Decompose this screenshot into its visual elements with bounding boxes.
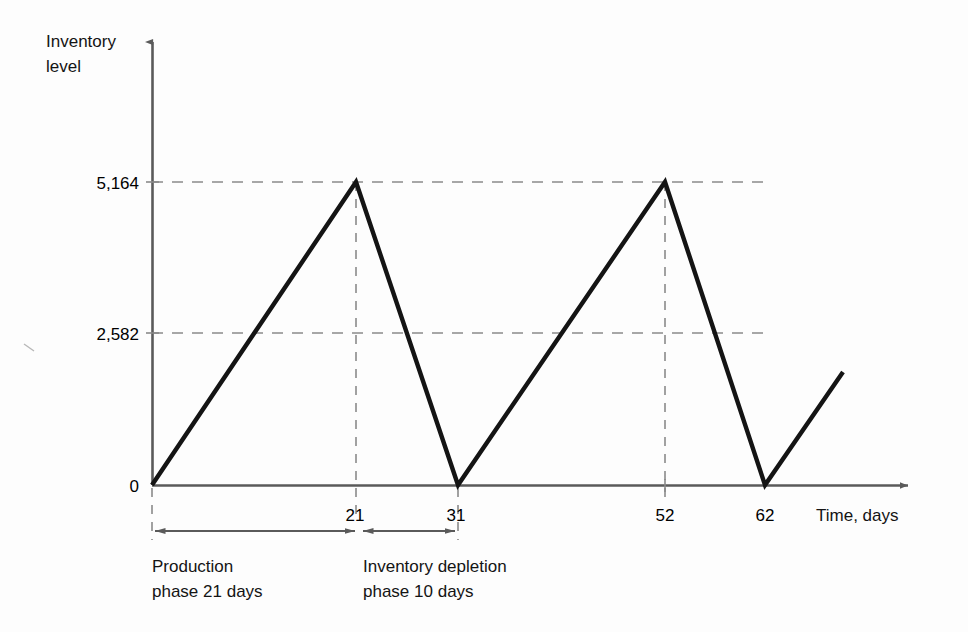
- x-tick-label-31: 31: [447, 506, 466, 525]
- y-tick-label-5164: 5,164: [96, 174, 139, 193]
- x-tick-label-21: 21: [346, 506, 365, 525]
- y-tick-label-2582: 2,582: [96, 325, 139, 344]
- x-axis-label: Time, days: [816, 506, 899, 525]
- production-phase-label-line1: Production: [152, 557, 233, 576]
- y-axis-label-line2: level: [46, 57, 81, 76]
- axes-group: [152, 42, 908, 486]
- scan-artifact-mark: [24, 344, 34, 351]
- gridlines-group: [152, 182, 772, 333]
- y-axis-label-line1: Inventory: [46, 32, 116, 51]
- production-phase-label-line2: phase 21 days: [152, 582, 263, 601]
- inventory-level-chart: Inventory level 5,164 2,582 0 21 31 52 6…: [0, 0, 968, 632]
- annotation-guide-lines-group: [152, 488, 458, 540]
- x-tick-label-52: 52: [656, 506, 675, 525]
- x-tick-label-62: 62: [756, 506, 775, 525]
- y-tick-label-0: 0: [130, 477, 139, 496]
- depletion-phase-label-line1: Inventory depletion: [363, 557, 507, 576]
- chart-container: Inventory level 5,164 2,582 0 21 31 52 6…: [0, 0, 968, 632]
- peak-drop-lines-group: [356, 182, 665, 520]
- depletion-phase-label-line2: phase 10 days: [363, 582, 474, 601]
